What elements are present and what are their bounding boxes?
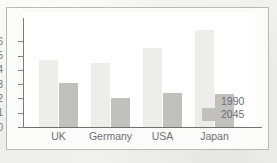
chart-screenshot: 0123456 UKGermanyUSAJapan 19902045 bbox=[0, 0, 277, 163]
y-axis-tick-label: 1 bbox=[0, 108, 3, 118]
y-axis-tick: 4 bbox=[6, 70, 24, 71]
y-axis-tick-mark bbox=[18, 56, 24, 57]
y-axis-tick-mark bbox=[18, 113, 24, 114]
y-axis-tick: 6 bbox=[6, 41, 24, 42]
bar-chart-plot-area: 0123456 UKGermanyUSAJapan 19902045 bbox=[6, 7, 269, 150]
legend-label-1990: 1990 bbox=[221, 96, 244, 107]
bar-uk-2045 bbox=[59, 83, 78, 127]
legend-label-2045: 2045 bbox=[221, 109, 244, 120]
y-axis-tick: 5 bbox=[6, 56, 24, 57]
x-axis-label-usa: USA bbox=[133, 131, 192, 142]
y-axis-tick-mark bbox=[18, 41, 24, 42]
y-axis-tick-label: 0 bbox=[0, 123, 3, 133]
y-axis-tick-label: 2 bbox=[0, 94, 3, 104]
x-axis-line bbox=[23, 127, 262, 128]
y-axis-tick: 3 bbox=[6, 84, 24, 85]
bar-usa-1990 bbox=[143, 48, 162, 127]
y-axis-tick: 0 bbox=[6, 127, 24, 128]
legend-item-1990: 1990 bbox=[202, 95, 264, 108]
y-axis-tick-mark bbox=[18, 84, 24, 85]
y-axis-tick-mark bbox=[18, 127, 24, 128]
y-axis-line bbox=[23, 18, 24, 128]
chart-legend: 19902045 bbox=[202, 95, 264, 121]
y-axis-tick-mark bbox=[18, 70, 24, 71]
y-axis-tick: 1 bbox=[6, 113, 24, 114]
y-axis-tick-label: 5 bbox=[0, 51, 3, 61]
legend-swatch-2045 bbox=[202, 108, 215, 121]
legend-swatch-1990 bbox=[202, 95, 215, 108]
bar-germany-2045 bbox=[111, 98, 130, 127]
x-axis-label-uk: UK bbox=[29, 131, 88, 142]
bar-uk-1990 bbox=[39, 60, 58, 127]
y-axis-tick-label: 3 bbox=[0, 80, 3, 90]
y-axis-tick-label: 4 bbox=[0, 65, 3, 75]
y-axis-tick-label: 6 bbox=[0, 37, 3, 47]
x-axis-label-germany: Germany bbox=[81, 131, 140, 142]
x-axis-label-japan: Japan bbox=[185, 131, 244, 142]
legend-item-2045: 2045 bbox=[202, 108, 264, 121]
y-axis-tick: 2 bbox=[6, 98, 24, 99]
bar-usa-2045 bbox=[163, 93, 182, 127]
bar-germany-1990 bbox=[91, 63, 110, 127]
y-axis-tick-mark bbox=[18, 98, 24, 99]
